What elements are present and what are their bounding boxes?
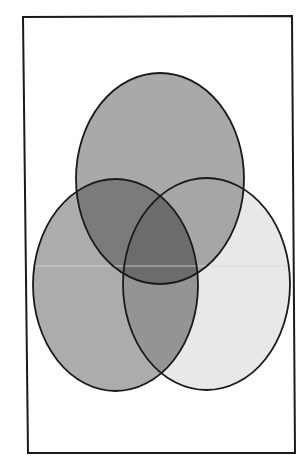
venn-diagram-canvas — [0, 0, 307, 473]
venn-diagram — [0, 0, 307, 473]
